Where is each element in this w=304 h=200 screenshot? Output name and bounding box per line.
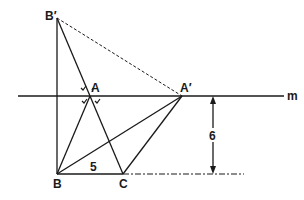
segment-b-aprime <box>57 96 182 174</box>
arrow-down-icon <box>210 166 216 174</box>
reflection-diagram: m 6 B′ A A′ B C 5 <box>0 0 304 200</box>
point-label-a: A <box>91 81 100 95</box>
segment-b-a <box>57 96 90 174</box>
point-label-bprime: B′ <box>45 9 57 23</box>
segment-bprime-aprime-dashed <box>57 18 182 96</box>
line-m-label: m <box>287 89 298 103</box>
segment-c-aprime <box>123 96 182 174</box>
point-label-aprime: A′ <box>180 81 192 95</box>
point-label-c: C <box>119 177 128 191</box>
segment-bc-length-label: 5 <box>90 160 97 174</box>
arrow-up-icon <box>210 96 216 104</box>
height-label: 6 <box>209 129 216 143</box>
point-label-b: B <box>53 177 62 191</box>
